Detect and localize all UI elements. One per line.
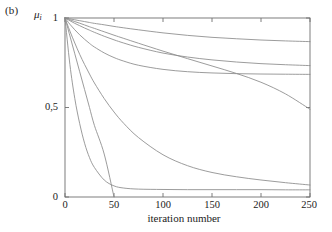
x-tick-label-150: 150 (199, 199, 225, 210)
figure-panel-b: (b) μi 1 0,5 0 0 50 100 150 200 250 iter… (0, 0, 332, 232)
y-tick-label-0-5: 0,5 (34, 101, 58, 112)
x-tick-label-250: 250 (296, 199, 322, 210)
x-axis-label-text: iteration number (147, 212, 220, 224)
x-axis-label: iteration number (0, 212, 332, 224)
x-tick-label-0: 0 (55, 199, 75, 210)
curve-7-fastest-decay-to-zero (65, 18, 114, 197)
x-tick-label-200: 200 (248, 199, 274, 210)
y-tick-label-1: 1 (40, 12, 58, 23)
curve-1-slowest-decay (65, 18, 310, 42)
x-tick-label-50: 50 (104, 199, 124, 210)
x-tick-label-100: 100 (150, 199, 176, 210)
curve-5-medium-fast-decay (65, 18, 310, 185)
axis-ticks (65, 18, 310, 197)
curve-6-fast-decay-to-floor (65, 18, 310, 190)
curve-3-moderate-decay (65, 18, 310, 74)
axes-frame (65, 18, 310, 197)
data-curves (65, 18, 310, 197)
panel-label: (b) (5, 4, 18, 16)
